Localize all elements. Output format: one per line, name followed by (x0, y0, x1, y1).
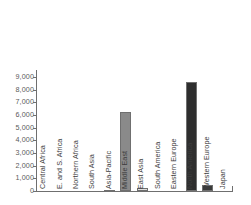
x-axis-category-label: Japan (218, 169, 227, 189)
x-axis-category-label: Western Europe (202, 136, 211, 189)
y-axis-tick-label: 9,000 (16, 72, 35, 81)
y-axis-tick-label: 8,000 (16, 85, 35, 94)
x-axis-category-label: Eastern Europe (169, 138, 178, 189)
x-axis-end-cap (232, 186, 233, 192)
y-axis-tick-label: 4,000 (16, 135, 35, 144)
x-axis-category-label: Middle East (120, 151, 129, 189)
y-axis-tick-mark (33, 191, 36, 192)
x-axis-category-label: South America (153, 142, 162, 189)
y-axis-tick-label: 6,000 (16, 110, 35, 119)
y-axis-tick-label: 7,000 (16, 97, 35, 106)
x-axis-category-label: East Asia (136, 159, 145, 189)
y-axis-tick-label: 5,000 (16, 123, 35, 132)
x-axis-category-label: South Asia (87, 154, 96, 189)
x-axis-category-label: Northern Africa (71, 140, 80, 189)
x-axis-category-label: Asia-Pacific (104, 151, 113, 189)
x-axis-category-label: Central Africa (38, 145, 47, 189)
x-axis-category-label: North America (185, 143, 194, 189)
bar-chart: 9,0008,0007,0006,0005,0004,0003,0002,000… (0, 0, 251, 205)
x-axis-category-label: E. and S. Africa (55, 139, 64, 189)
y-axis-tick-label: 3,000 (16, 148, 35, 157)
bar (104, 190, 115, 192)
y-axis-tick-label: 1,000 (16, 173, 35, 182)
x-axis-line (36, 191, 233, 192)
y-axis-tick-label: 2,000 (16, 161, 35, 170)
